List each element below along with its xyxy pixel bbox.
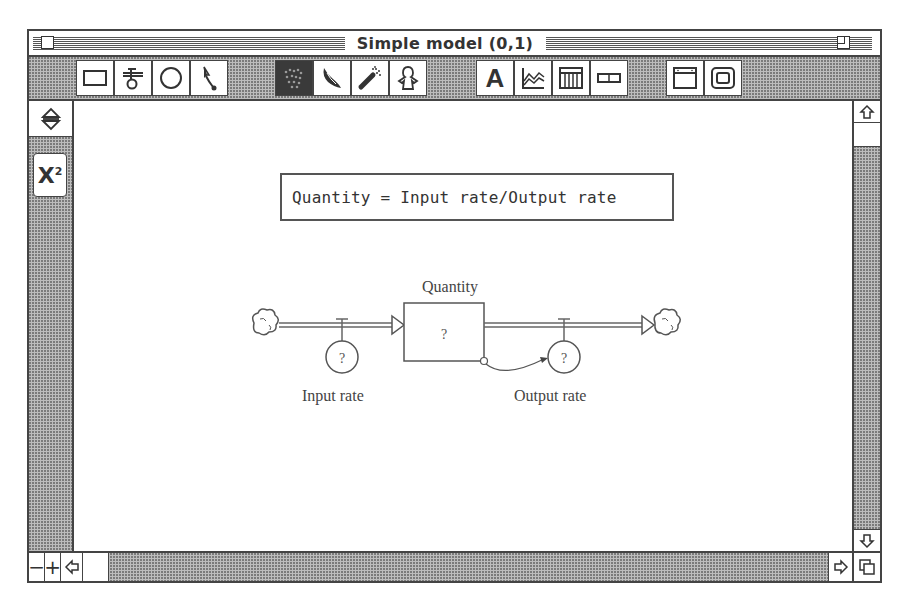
left-palette: X2 (29, 101, 74, 551)
scroll-down-button[interactable] (854, 529, 880, 551)
text-a-icon: A (486, 65, 505, 91)
ghost-icon (394, 64, 422, 92)
hand-grab-icon (280, 64, 308, 92)
resize-icon (858, 558, 876, 576)
up-arrow-icon (859, 104, 875, 120)
scroll-up-button[interactable] (854, 101, 880, 123)
graph-tool[interactable] (514, 60, 552, 96)
table-icon (557, 65, 585, 91)
sector-tool[interactable] (704, 60, 742, 96)
button-tool[interactable] (666, 60, 704, 96)
stock-flow-diagram: ? ? (74, 101, 852, 551)
dynamite-icon (356, 64, 384, 92)
output-rate-value: ? (561, 351, 567, 366)
connector-arrow-icon (196, 64, 222, 92)
output-rate-label: Output rate (514, 387, 586, 405)
input-rate-value: ? (339, 351, 345, 366)
ghost-tool[interactable] (389, 60, 427, 96)
output-rate-valve[interactable]: ? (548, 341, 580, 373)
zoom-out-button[interactable]: − (29, 553, 45, 581)
numeric-display-icon (595, 71, 623, 85)
hand-tool[interactable] (275, 60, 313, 96)
horizontal-scroll-thumb[interactable] (83, 553, 109, 581)
title-stripes-right (546, 36, 872, 50)
converter-tool[interactable] (152, 60, 190, 96)
up-down-arrows-icon (40, 106, 62, 132)
zoom-box[interactable] (837, 36, 850, 49)
title-stripes-left (33, 36, 345, 50)
resize-grow-box[interactable] (852, 551, 880, 581)
stock-tool[interactable] (76, 60, 114, 96)
left-arrow-icon (64, 559, 80, 575)
equation-mode-button[interactable]: X2 (33, 153, 67, 197)
paintbrush-icon (318, 64, 346, 92)
window-title: Simple model (0,1) (345, 34, 545, 53)
paintbrush-tool[interactable] (313, 60, 351, 96)
flow-valve-icon (120, 66, 146, 90)
outflow-pipe[interactable] (484, 316, 654, 341)
button-window-icon (671, 65, 699, 91)
connector-tool[interactable] (190, 60, 228, 96)
quantity-value: ? (441, 327, 447, 342)
numeric-display-tool[interactable] (590, 60, 628, 96)
source-cloud-icon[interactable] (253, 309, 279, 335)
close-box[interactable] (41, 36, 54, 49)
quantity-stock[interactable]: ? (404, 303, 484, 361)
right-arrow-icon (833, 559, 849, 575)
rectangle-stock-icon (82, 69, 108, 87)
scroll-left-button[interactable] (61, 553, 83, 581)
horizontal-scrollbar[interactable]: − + (29, 551, 852, 581)
input-rate-label: Input rate (302, 387, 364, 405)
zoom-in-button[interactable]: + (45, 553, 61, 581)
vertical-scroll-thumb[interactable] (854, 123, 880, 147)
dynamite-tool[interactable] (351, 60, 389, 96)
inflow-pipe[interactable] (279, 316, 404, 341)
connector-arrow[interactable] (481, 357, 549, 370)
palette-toggle-button[interactable] (29, 101, 72, 137)
toolbar: A (29, 57, 880, 101)
model-window: Simple model (0,1) A (27, 29, 882, 583)
flow-tool[interactable] (114, 60, 152, 96)
text-tool[interactable]: A (476, 60, 514, 96)
title-bar[interactable]: Simple model (0,1) (29, 31, 880, 57)
down-arrow-icon (859, 533, 875, 549)
stock-label: Quantity (422, 278, 478, 296)
sink-cloud-icon[interactable] (654, 309, 680, 335)
scroll-right-button[interactable] (828, 553, 852, 581)
model-canvas[interactable]: Quantity = Input rate/Output rate ? (74, 101, 852, 551)
x-squared-icon: X2 (38, 163, 63, 188)
table-tool[interactable] (552, 60, 590, 96)
sector-frame-icon (709, 65, 737, 91)
graph-icon (519, 65, 547, 91)
input-rate-valve[interactable]: ? (326, 341, 358, 373)
vertical-scrollbar[interactable] (852, 101, 880, 551)
circle-converter-icon (158, 65, 184, 91)
